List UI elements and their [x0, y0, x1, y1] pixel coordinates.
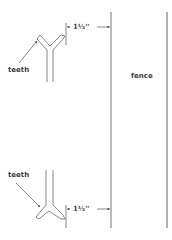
- top-teeth-shape: [37, 35, 65, 82]
- bottom-teeth-shape: [36, 170, 65, 219]
- teeth-bottom-label: teeth: [8, 172, 29, 179]
- top-dimension-label: 1½'': [72, 23, 90, 30]
- teeth-bottom-pointer-arrow: [16, 183, 40, 207]
- teeth-top-label: teeth: [8, 67, 29, 74]
- bottom-dimension-label: 1½'': [72, 205, 90, 212]
- fence-label: fence: [131, 73, 153, 80]
- teeth-top-pointer-arrow: [19, 41, 37, 63]
